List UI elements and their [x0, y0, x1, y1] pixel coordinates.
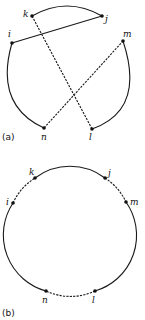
label-j: j: [106, 168, 111, 178]
label-i: i: [6, 197, 9, 207]
chord-n-m: [44, 41, 123, 128]
label-k: k: [23, 9, 28, 19]
label-n: n: [42, 295, 48, 305]
arc-i-n: [7, 43, 44, 128]
point-n: [44, 289, 48, 293]
label-m: m: [123, 29, 132, 39]
point-m: [124, 200, 128, 204]
label-l: l: [92, 295, 95, 305]
point-n: [42, 126, 46, 130]
arc-n-i: [3, 203, 46, 291]
figure-b: k j i m n l (b): [2, 166, 139, 318]
arc-l-n: [46, 291, 95, 296]
label-l: l: [89, 132, 92, 142]
label-j: j: [103, 14, 108, 24]
chord-i-j: [12, 16, 102, 43]
figure-a: k j i m n l (a): [2, 6, 132, 142]
label-k: k: [29, 167, 34, 177]
chord-k-l: [32, 16, 92, 129]
diagram-canvas: k j i m n l (a) k j i m n l (b): [0, 0, 145, 320]
point-i: [10, 41, 14, 45]
point-l: [93, 289, 97, 293]
caption-b: (b): [2, 308, 15, 318]
point-m: [121, 39, 125, 43]
caption-a: (a): [2, 132, 15, 142]
arc-j-m: [105, 178, 126, 202]
arc-k-j: [35, 166, 105, 178]
label-m: m: [130, 197, 139, 207]
label-i: i: [8, 29, 11, 39]
point-j: [103, 176, 107, 180]
arc-m-l: [95, 202, 137, 291]
arc-i-k: [13, 178, 35, 203]
point-i: [11, 201, 15, 205]
point-k: [30, 14, 34, 18]
label-n: n: [41, 132, 47, 142]
point-j: [100, 14, 104, 18]
point-l: [90, 127, 94, 131]
arc-k-j: [32, 6, 102, 16]
